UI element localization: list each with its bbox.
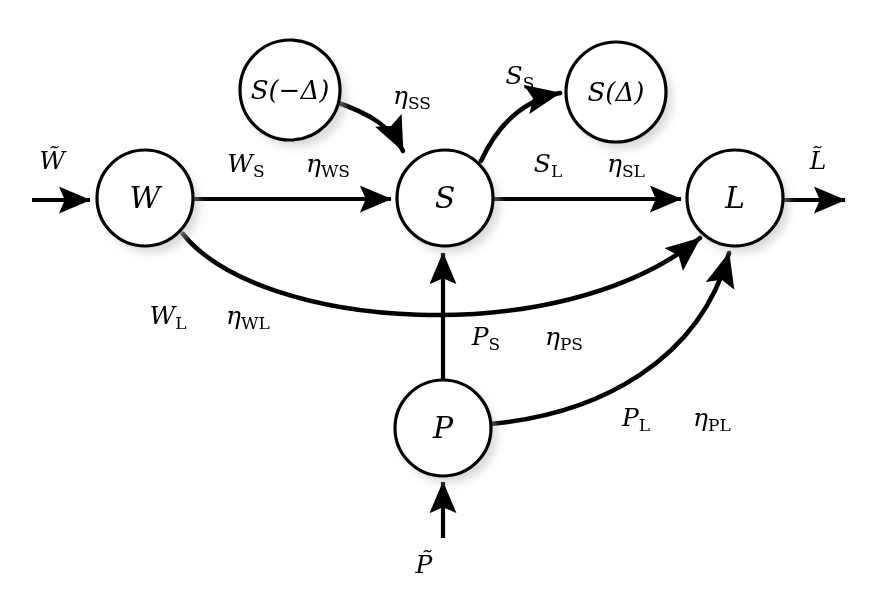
edge-label-s-s-flux-sub: S <box>523 73 535 93</box>
node-p[interactable]: P <box>395 380 491 476</box>
edge-label-ps-flux: P <box>471 322 490 351</box>
edge-label-ps-eta-sub: PS <box>560 334 583 354</box>
node-p-label: P <box>432 410 454 445</box>
edge-label-s-s-flux: S <box>506 61 523 90</box>
diagram-canvas: W S L P S(−Δ) S(Δ) W̃ L̃ P̃ WS ηWS SL <box>0 0 878 596</box>
input-label-w-tilde: W̃ <box>39 146 67 175</box>
node-s-plus-delta-label: S(Δ) <box>588 77 645 107</box>
edge-label-sl-flux: S <box>534 149 551 178</box>
edge-label-pl: PL ηPL <box>566 403 770 439</box>
edge-label-ws: WS ηWS <box>172 149 390 185</box>
output-label-l-tilde: L̃ <box>809 146 827 175</box>
node-s-plus-delta[interactable]: S(Δ) <box>566 42 666 142</box>
node-l-label: L <box>724 180 745 215</box>
node-l[interactable]: L <box>687 150 783 246</box>
flow-diagram: W S L P S(−Δ) S(Δ) W̃ L̃ P̃ WS ηWS SL <box>0 0 878 596</box>
edge-label-wl-eta-sub: WL <box>241 313 270 333</box>
edge-label-wl: WL ηWL <box>94 301 310 337</box>
edge-label-wl-eta: η <box>226 301 241 330</box>
edge-label-ps-eta: η <box>545 322 560 351</box>
edge-label-sl-eta-sub: SL <box>622 161 645 181</box>
node-s-minus-delta[interactable]: S(−Δ) <box>240 40 340 140</box>
edge-label-ws-eta-sub: WS <box>321 161 350 181</box>
node-s-label: S <box>435 180 456 215</box>
edge-label-ps: PS ηPS <box>416 322 623 358</box>
edge-label-ss-eta: η <box>393 81 408 110</box>
edge-label-pl-eta-sub: PL <box>708 415 731 435</box>
node-s-minus-delta-label: S(−Δ) <box>251 75 330 105</box>
edge-label-sl: SL ηSL <box>478 149 685 185</box>
edge-label-ws-eta: η <box>306 149 321 178</box>
edge-label-ss-eta-sub: SS <box>408 93 431 113</box>
edge-label-pl-eta: η <box>693 403 708 432</box>
node-w-label: W <box>130 180 163 215</box>
edge-label-sl-eta: η <box>607 149 622 178</box>
input-label-p-tilde: P̃ <box>415 550 434 579</box>
